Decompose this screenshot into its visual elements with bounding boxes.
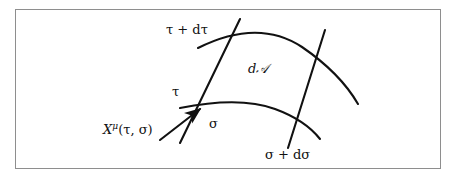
x-mu-arguments: (τ, σ): [118, 122, 152, 137]
label-sigma: σ: [209, 117, 218, 130]
label-tau-plus-dtau: τ + dτ: [166, 23, 208, 36]
tau-plus-dtau-curve: [198, 33, 358, 104]
label-x-mu-embedding: Xμ(τ, σ): [103, 122, 153, 136]
label-sigma-plus-dsigma: σ + dσ: [265, 148, 310, 161]
x-mu-arrow: [160, 109, 200, 140]
x-mu-base: X: [103, 122, 112, 137]
worldsheet-diagram-svg: [0, 0, 459, 181]
sigma-plus-dsigma-line: [288, 30, 325, 148]
label-tau: τ: [172, 85, 179, 98]
figure-root: τ + dτ d𝒜 τ σ Xμ(τ, σ) σ + dσ: [0, 0, 459, 181]
tau-curve: [180, 102, 320, 139]
label-area-element: d𝒜: [248, 62, 268, 75]
